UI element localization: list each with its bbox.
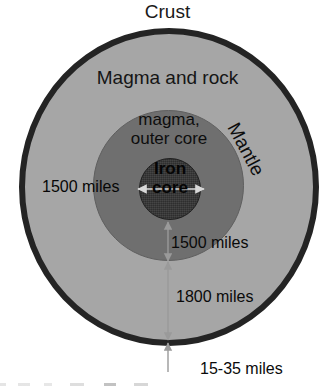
magma-and-rock-label: Magma and rock — [0, 67, 335, 88]
crust-label: Crust — [0, 1, 335, 22]
inner-core-label: Iron core — [129, 159, 211, 197]
outer-core-label-line1: magma, — [104, 110, 234, 129]
outer-core-label: magma, outer core — [104, 110, 234, 148]
earth-layers-diagram: Crust Magma and rock Mantle magma, outer… — [0, 0, 335, 386]
mantle-thickness-label: 1800 miles — [176, 288, 253, 306]
inner-core-diameter-label: 1500 miles — [42, 178, 119, 196]
crust-thickness-label: 15-35 miles — [200, 360, 283, 378]
inner-core-label-line2: core — [129, 178, 211, 197]
outer-core-thickness-label: 1500 miles — [171, 234, 248, 252]
inner-core-label-line1: Iron — [129, 159, 211, 178]
outer-core-label-line2: outer core — [104, 129, 234, 148]
